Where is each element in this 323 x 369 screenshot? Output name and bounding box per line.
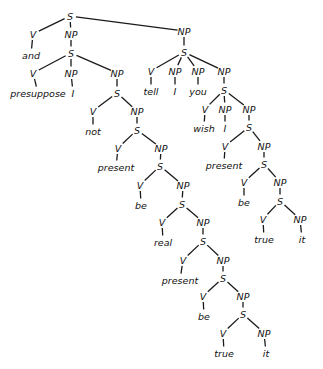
node-np-label: NP [178, 26, 191, 37]
word-label: I [72, 88, 75, 99]
tree-edge [76, 17, 178, 30]
node-np-label: NP [237, 291, 250, 302]
word-label: be [135, 200, 147, 211]
tree-edge [77, 55, 112, 70]
node-s-label: S [261, 159, 267, 170]
node-np-label: NP [274, 177, 287, 188]
word-label: it [299, 234, 307, 245]
word-label: present [205, 160, 244, 171]
node-s-label: S [240, 309, 246, 320]
node-np-label: NP [111, 68, 124, 79]
tree-edge [188, 57, 195, 66]
node-v-label: V [200, 291, 208, 302]
word-label: be [198, 311, 210, 322]
node-np-label: NP [65, 68, 78, 79]
node-s-label: S [157, 161, 163, 172]
word-label: present [97, 162, 136, 173]
tree-edge [117, 154, 118, 161]
node-v-label: V [30, 29, 38, 40]
node-np-label: NP [197, 217, 210, 228]
node-s-label: S [134, 125, 140, 136]
word-label: true [254, 234, 274, 245]
node-v-label: V [159, 217, 167, 228]
node-v-label: V [241, 177, 249, 188]
word-label: tell [144, 86, 159, 97]
node-v-label: V [180, 255, 188, 266]
tree-edge [39, 19, 65, 32]
tree-edge [98, 97, 112, 108]
tree-edge [181, 266, 182, 274]
node-np-label: NP [258, 328, 271, 339]
tree-edge [249, 168, 260, 178]
node-s-label: S [68, 48, 74, 59]
node-v-label: V [137, 180, 145, 191]
word-label: be [238, 197, 250, 208]
node-np-label: NP [131, 106, 144, 117]
word-label: presuppose [9, 88, 66, 99]
node-s-label: S [200, 236, 206, 247]
node-v-label: V [222, 141, 230, 152]
tree-edge [265, 339, 266, 347]
node-np-label: NP [169, 66, 182, 77]
node-np-label: NP [177, 180, 190, 191]
node-v-label: V [260, 214, 268, 225]
word-label: present [161, 275, 200, 286]
tree-edge [32, 40, 33, 49]
tree-edge [268, 205, 276, 214]
node-s-label: S [246, 122, 252, 133]
node-v-label: V [148, 66, 156, 77]
tree-edge [72, 79, 73, 87]
node-s-label: S [114, 88, 120, 99]
node-s-label: S [181, 47, 187, 58]
word-label: real [154, 237, 173, 248]
node-np-label: NP [65, 29, 78, 40]
tree-edge [230, 131, 244, 142]
word-label: not [85, 126, 102, 137]
word-label: I [224, 123, 227, 134]
node-np-label: NP [219, 104, 232, 115]
tree-edge [208, 282, 219, 292]
tree-edges [32, 17, 302, 347]
node-v-label: V [220, 328, 228, 339]
node-np-label: NP [155, 143, 168, 154]
node-np-label: NP [217, 255, 230, 266]
node-np-label: NP [258, 141, 271, 152]
tree-edge [167, 208, 178, 218]
node-s-label: S [67, 11, 73, 22]
tree-edge [178, 57, 182, 65]
tree-edge [39, 56, 66, 70]
word-label: and [22, 50, 41, 61]
node-np-label: NP [192, 66, 205, 77]
tree-edge [145, 170, 156, 180]
tree-edge [228, 318, 239, 328]
word-label: you [188, 86, 206, 97]
node-v-label: V [115, 143, 123, 154]
syntax-tree-diagram: SVandNPNPSVpresupposeNPINPSVnotNPSVprese… [0, 0, 323, 369]
tree-edge [123, 134, 133, 143]
node-s-label: S [179, 199, 185, 210]
node-v-label: V [90, 106, 98, 117]
tree-edge [301, 225, 302, 233]
word-label: I [174, 86, 177, 97]
node-s-label: S [221, 85, 227, 96]
node-s-label: S [220, 273, 226, 284]
word-label: wish [193, 123, 214, 134]
tree-edge [35, 79, 37, 87]
word-label: it [263, 348, 271, 359]
node-v-label: V [202, 104, 210, 115]
node-v-label: V [30, 68, 38, 79]
node-np-label: NP [243, 104, 256, 115]
node-s-label: S [277, 196, 283, 207]
node-np-label: NP [294, 214, 307, 225]
word-label: true [214, 348, 234, 359]
node-np-label: NP [218, 66, 231, 77]
tree-edge [188, 245, 199, 255]
